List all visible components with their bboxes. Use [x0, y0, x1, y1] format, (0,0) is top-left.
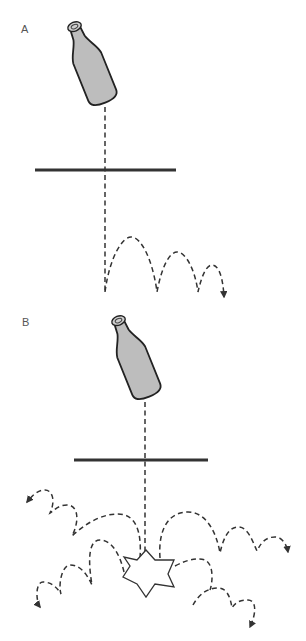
- fragment-path-upper-right: [160, 512, 288, 558]
- fragment-path-lower-left: [37, 540, 124, 607]
- bottle-drop-figure: A B: [0, 0, 306, 641]
- bounce-path: [105, 237, 224, 297]
- bottle-icon: [59, 17, 119, 108]
- figure-drawing: [0, 0, 306, 641]
- fragment-path-upper-left: [27, 490, 140, 558]
- panel-b: [27, 311, 288, 627]
- bottle-icon: [103, 311, 163, 402]
- panel-a: [35, 17, 224, 297]
- shatter-star-icon: [123, 550, 174, 597]
- fragment-path-lower-right: [175, 559, 255, 627]
